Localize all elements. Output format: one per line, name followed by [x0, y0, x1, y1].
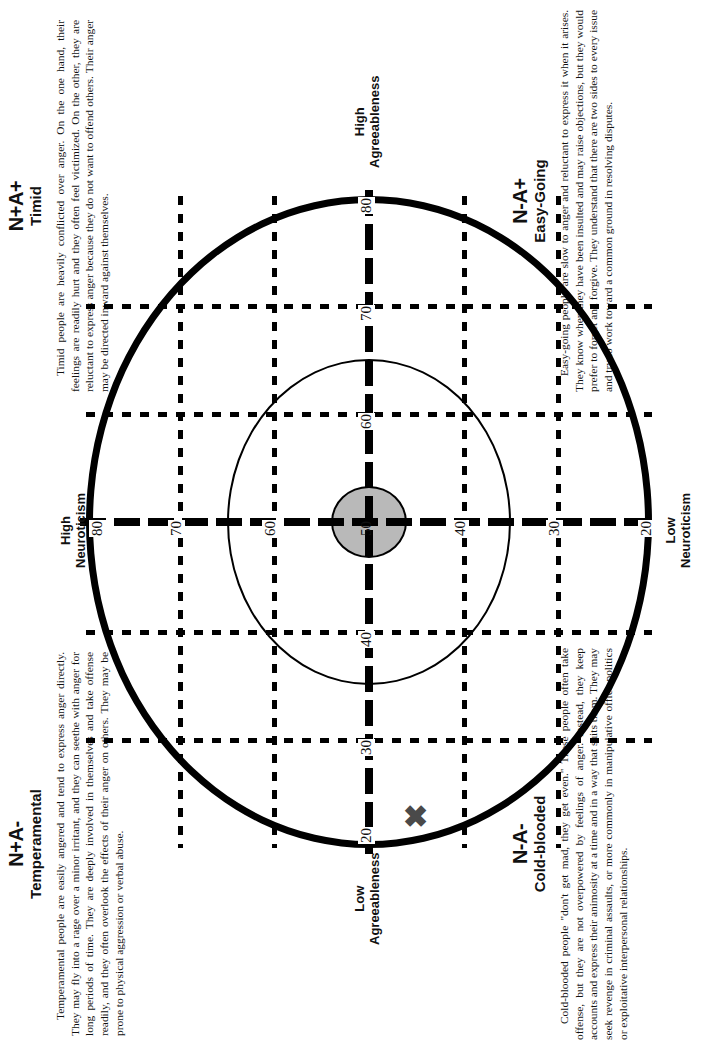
tick-agreeableness-30: 30: [358, 739, 375, 756]
tick-neuroticism-60: 60: [262, 520, 279, 537]
tick-agreeableness-80: 80: [358, 197, 375, 214]
axis-label-low-neuroticism-line1: Low: [663, 517, 678, 543]
axis-label-low-agreeableness: Low Agreeableness: [352, 853, 383, 946]
quadrant-temperamental-name: Temperamental: [28, 652, 44, 1036]
quadrant-temperamental-code: N+A-: [6, 652, 27, 1036]
tick-neuroticism-30: 30: [546, 520, 563, 537]
axis-label-high-agreeableness-line1: High: [352, 107, 367, 136]
tick-agreeableness-20: 20: [358, 827, 375, 844]
tick-agreeableness-70: 70: [358, 305, 375, 322]
circumplex-diagram: 80 70 60 50 40 30 20 80 70 60 40 30 20 ✖: [86, 196, 652, 848]
tick-neuroticism-40: 40: [452, 520, 469, 537]
tick-agreeableness-40: 40: [358, 631, 375, 648]
data-point-marker: ✖: [402, 804, 428, 830]
axis-label-low-agreeableness-line1: Low: [352, 886, 367, 912]
tick-neuroticism-70: 70: [168, 520, 185, 537]
tick-neuroticism-50: 50: [358, 520, 375, 537]
axis-label-low-neuroticism: Low Neuroticism: [663, 493, 694, 568]
axis-label-high-agreeableness-line2: Agreeableness: [367, 76, 382, 169]
axis-label-high-agreeableness: High Agreeableness: [352, 76, 383, 169]
axis-label-low-agreeableness-line2: Agreeableness: [367, 853, 382, 946]
quadrant-timid-name: Timid: [28, 20, 44, 392]
axis-label-high-neuroticism-line1: High: [58, 516, 73, 545]
axis-label-high-neuroticism-line2: Neuroticism: [73, 493, 88, 568]
axis-label-high-neuroticism: High Neuroticism: [58, 493, 89, 568]
tick-neuroticism-80: 80: [89, 520, 106, 537]
quadrant-timid-code: N+A+: [6, 20, 27, 392]
axis-label-low-neuroticism-line2: Neuroticism: [678, 493, 693, 568]
tick-agreeableness-60: 60: [358, 413, 375, 430]
tick-neuroticism-20: 20: [638, 520, 655, 537]
